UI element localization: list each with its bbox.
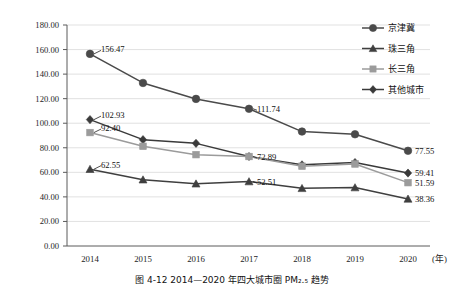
series-diamond	[86, 116, 411, 178]
data-point-diamond	[86, 116, 93, 124]
legend-label: 京津冀	[388, 22, 415, 33]
data-point-circle	[404, 147, 412, 155]
y-tick-label: 0.00	[44, 241, 59, 251]
x-axis-unit-label: (年)	[432, 253, 447, 264]
y-tick-label: 60.00	[40, 167, 59, 177]
chart-canvas: 0.0020.0040.0060.0080.00100.00120.00140.…	[0, 0, 465, 288]
x-tick-label: 2017	[240, 254, 258, 264]
y-axis-ticks	[63, 25, 67, 246]
data-point-square	[352, 161, 359, 168]
label-leader	[94, 129, 101, 133]
legend-item-circle[interactable]: 京津冀	[362, 22, 415, 33]
data-label: 77.55	[415, 146, 434, 156]
data-label: 59.41	[415, 168, 434, 178]
data-label: 111.74	[257, 104, 281, 114]
y-tick-label: 100.00	[35, 118, 59, 128]
data-point-circle	[298, 128, 306, 136]
data-label: 38.36	[415, 194, 435, 204]
data-label: 102.93	[101, 110, 125, 120]
series-line	[90, 54, 408, 151]
y-tick-label: 160.00	[35, 45, 59, 55]
data-point-diamond	[370, 86, 377, 94]
data-point-circle	[351, 130, 359, 138]
series-circle	[86, 50, 412, 154]
data-label: 62.55	[101, 160, 120, 170]
data-point-square	[246, 153, 253, 160]
x-axis-tick-labels: 2014201520162017201820192020	[81, 254, 417, 264]
data-point-square	[87, 129, 94, 136]
x-tick-label: 2015	[134, 254, 152, 264]
data-point-triangle	[86, 165, 94, 172]
data-point-square	[193, 151, 200, 158]
legend-item-square[interactable]: 长三角	[362, 63, 415, 74]
data-point-circle	[369, 24, 376, 31]
y-tick-label: 120.00	[35, 94, 59, 104]
data-point-square	[299, 163, 306, 170]
chart-legend: 京津冀珠三角长三角其他城市	[362, 22, 424, 95]
x-tick-label: 2018	[293, 254, 311, 264]
data-point-circle	[139, 79, 147, 87]
label-leader	[94, 166, 101, 170]
data-label: 92.40	[101, 123, 120, 133]
data-point-diamond	[404, 169, 411, 177]
label-leader	[94, 50, 101, 54]
x-tick-label: 2014	[81, 254, 99, 264]
data-label: 156.47	[101, 44, 125, 54]
data-point-square	[405, 179, 412, 186]
data-point-circle	[86, 50, 94, 58]
legend-label: 其他城市	[388, 84, 424, 95]
figure-caption: 图 4-12 2014—2020 年四大城市圈 PM₂.₅ 趋势	[135, 274, 329, 285]
series-line	[90, 120, 408, 173]
data-label: 51.59	[415, 178, 434, 188]
legend-label: 长三角	[388, 63, 415, 74]
legend-label: 珠三角	[388, 43, 415, 54]
y-tick-label: 180.00	[35, 20, 59, 30]
data-label: 52.51	[257, 177, 276, 187]
legend-item-diamond[interactable]: 其他城市	[362, 84, 424, 95]
x-tick-label: 2019	[346, 254, 364, 264]
data-point-circle	[192, 95, 200, 103]
x-tick-label: 2020	[399, 254, 417, 264]
data-point-diamond	[139, 136, 146, 144]
label-leader	[94, 116, 101, 120]
y-tick-label: 20.00	[40, 216, 59, 226]
x-tick-label: 2016	[187, 254, 205, 264]
figure-caption-clip: 图 4-12 2014—2020 年四大城市圈 PM₂.₅ 趋势	[0, 272, 465, 288]
series-layer	[86, 50, 412, 202]
data-point-square	[370, 66, 376, 72]
y-tick-label: 140.00	[35, 69, 59, 79]
data-point-square	[140, 143, 147, 150]
legend-item-triangle[interactable]: 珠三角	[362, 43, 415, 54]
line-chart: 0.0020.0040.0060.0080.00100.00120.00140.…	[0, 0, 465, 288]
data-point-circle	[245, 105, 253, 113]
y-axis-tick-labels: 0.0020.0040.0060.0080.00100.00120.00140.…	[35, 20, 59, 251]
data-point-diamond	[192, 139, 199, 147]
y-tick-label: 40.00	[40, 192, 59, 202]
y-tick-label: 80.00	[40, 143, 59, 153]
data-label: 72.89	[257, 152, 276, 162]
